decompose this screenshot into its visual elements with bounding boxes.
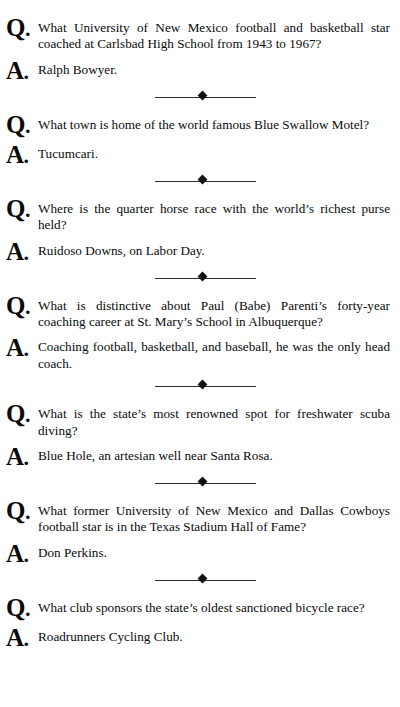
question-row: Q.What is the state’s most renowned spot… [6, 400, 390, 439]
question-marker-letter: Q [6, 14, 25, 41]
question-text: What University of New Mexico football a… [38, 14, 390, 53]
question-marker-dot: . [25, 294, 30, 319]
qa-block: Q.What former University of New Mexico a… [6, 497, 390, 566]
answer-marker-dot: . [24, 336, 29, 361]
answer-row: A.Don Perkins. [6, 540, 390, 566]
qa-block: Q.What club sponsors the state’s oldest … [6, 594, 390, 650]
question-marker-letter: Q [6, 594, 25, 621]
question-text: What former University of New Mexico and… [38, 497, 390, 536]
answer-marker-letter: A [6, 443, 24, 470]
question-row: Q.What town is home of the world famous … [6, 111, 390, 137]
answer-marker-letter: A [6, 334, 24, 361]
section-divider [6, 568, 390, 594]
answer-row: A.Roadrunners Cycling Club. [6, 624, 390, 650]
answer-marker: A. [6, 624, 38, 650]
answer-marker-letter: A [6, 57, 24, 84]
answer-marker: A. [6, 443, 38, 469]
question-marker: Q. [6, 400, 38, 426]
question-marker: Q. [6, 195, 38, 221]
section-divider [6, 374, 390, 400]
qa-block: Q.What is the state’s most renowned spot… [6, 400, 390, 469]
answer-marker-dot: . [24, 240, 29, 265]
question-marker-letter: Q [6, 111, 25, 138]
question-marker-dot: . [25, 402, 30, 427]
qa-block: Q.What is distinctive about Paul (Babe) … [6, 292, 390, 373]
qa-block: Q.What University of New Mexico football… [6, 14, 390, 83]
qa-block: Q.Where is the quarter horse race with t… [6, 195, 390, 264]
answer-row: A.Blue Hole, an artesian well near Santa… [6, 443, 390, 469]
question-marker: Q. [6, 497, 38, 523]
section-divider [6, 169, 390, 195]
question-row: Q.Where is the quarter horse race with t… [6, 195, 390, 234]
question-marker: Q. [6, 594, 38, 620]
question-marker-dot: . [25, 197, 30, 222]
answer-marker-letter: A [6, 540, 24, 567]
answer-marker: A. [6, 141, 38, 167]
question-text: What is the state’s most renowned spot f… [38, 400, 390, 439]
question-marker-letter: Q [6, 292, 25, 319]
answer-text: Roadrunners Cycling Club. [38, 624, 390, 645]
question-marker-dot: . [25, 16, 30, 41]
answer-marker-dot: . [24, 542, 29, 567]
answer-marker: A. [6, 57, 38, 83]
question-marker-letter: Q [6, 400, 25, 427]
answer-marker-dot: . [24, 626, 29, 651]
answer-marker-dot: . [24, 445, 29, 470]
answer-marker-dot: . [24, 143, 29, 168]
section-divider [6, 266, 390, 292]
answer-text: Blue Hole, an artesian well near Santa R… [38, 443, 390, 464]
question-row: Q.What University of New Mexico football… [6, 14, 390, 53]
question-row: Q.What former University of New Mexico a… [6, 497, 390, 536]
question-marker-letter: Q [6, 195, 25, 222]
answer-marker-dot: . [24, 59, 29, 84]
diamond-icon [198, 380, 208, 390]
diamond-icon [198, 174, 208, 184]
question-marker-letter: Q [6, 497, 25, 524]
question-marker-dot: . [25, 113, 30, 138]
answer-marker-letter: A [6, 238, 24, 265]
running-head [6, 0, 390, 14]
answer-text: Ralph Bowyer. [38, 57, 390, 78]
question-marker: Q. [6, 111, 38, 137]
question-row: Q.What club sponsors the state’s oldest … [6, 594, 390, 620]
question-text: Where is the quarter horse race with the… [38, 195, 390, 234]
answer-marker: A. [6, 238, 38, 264]
answer-row: A.Ralph Bowyer. [6, 57, 390, 83]
diamond-icon [198, 90, 208, 100]
question-marker-dot: . [25, 596, 30, 621]
diamond-icon [198, 477, 208, 487]
question-marker: Q. [6, 14, 38, 40]
qa-list: Q.What University of New Mexico football… [6, 14, 390, 650]
question-text: What town is home of the world famous Bl… [38, 111, 390, 133]
section-divider [6, 85, 390, 111]
diamond-icon [198, 573, 208, 583]
answer-marker-letter: A [6, 624, 24, 651]
question-marker: Q. [6, 292, 38, 318]
answer-row: A.Tucumcari. [6, 141, 390, 167]
question-text: What club sponsors the state’s oldest sa… [38, 594, 390, 616]
answer-text: Tucumcari. [38, 141, 390, 162]
document-page: Q.What University of New Mexico football… [0, 0, 400, 707]
diamond-icon [198, 271, 208, 281]
answer-row: A.Ruidoso Downs, on Labor Day. [6, 238, 390, 264]
qa-block: Q.What town is home of the world famous … [6, 111, 390, 167]
answer-marker: A. [6, 334, 38, 360]
answer-marker: A. [6, 540, 38, 566]
answer-text: Don Perkins. [38, 540, 390, 561]
question-text: What is distinctive about Paul (Babe) Pa… [38, 292, 390, 331]
answer-text: Coaching football, basketball, and baseb… [38, 334, 390, 372]
section-divider [6, 471, 390, 497]
question-marker-dot: . [25, 499, 30, 524]
answer-marker-letter: A [6, 141, 24, 168]
question-row: Q.What is distinctive about Paul (Babe) … [6, 292, 390, 331]
answer-text: Ruidoso Downs, on Labor Day. [38, 238, 390, 259]
answer-row: A.Coaching football, basketball, and bas… [6, 334, 390, 372]
